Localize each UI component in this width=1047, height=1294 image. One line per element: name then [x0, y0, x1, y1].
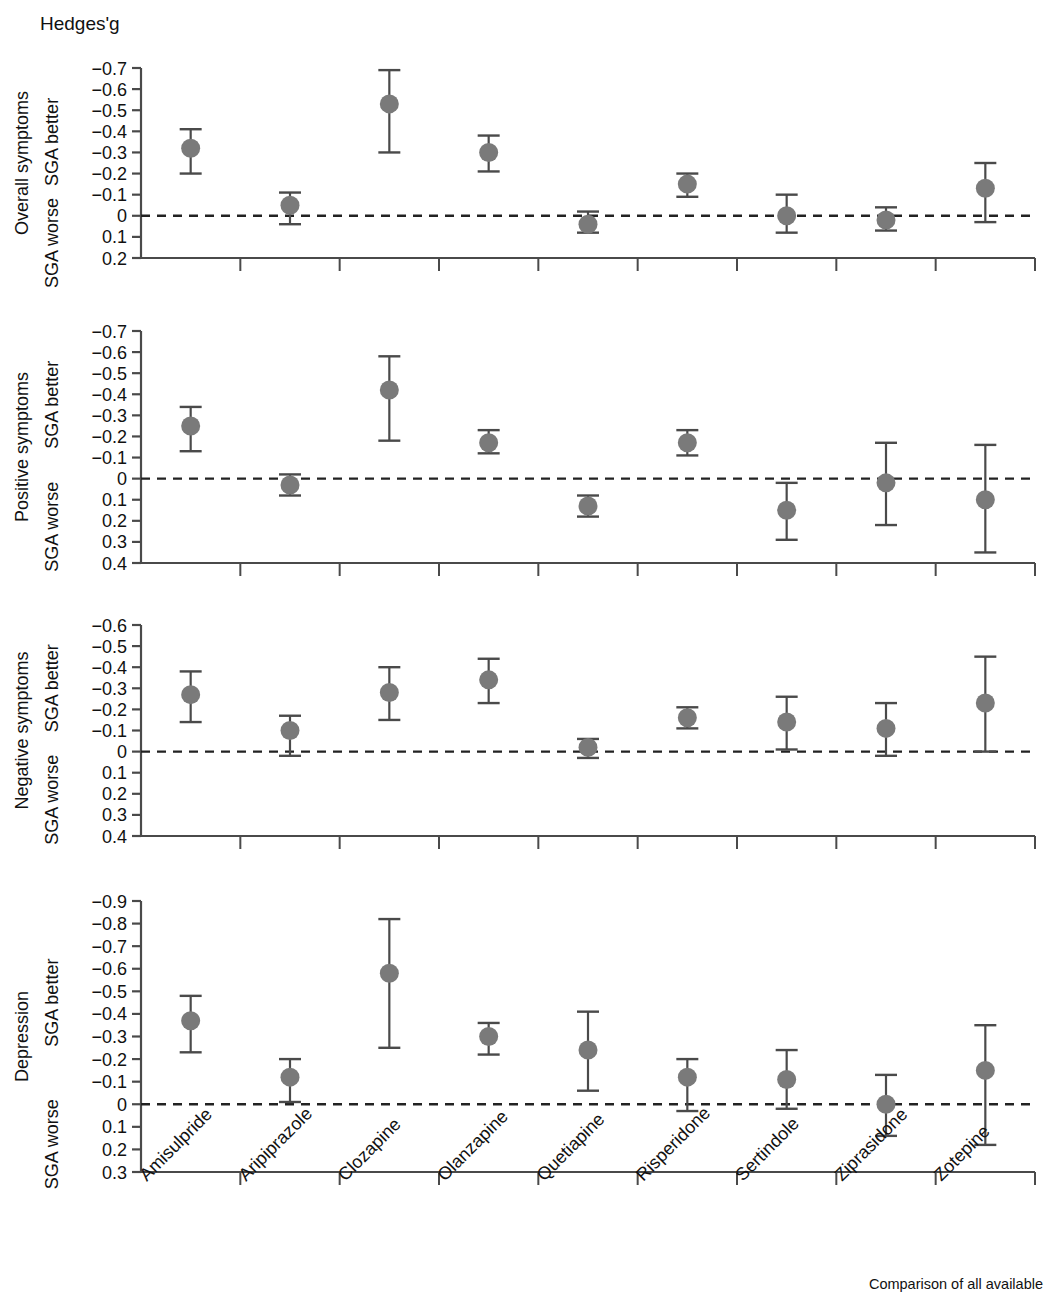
effect-size-marker	[479, 143, 498, 162]
effect-size-marker	[380, 683, 399, 702]
sga-worse-label: SGA worse	[42, 755, 62, 845]
panel-title: Overall symptoms	[12, 91, 32, 235]
data-point-group	[378, 919, 400, 1048]
panel-title: Depression	[12, 991, 32, 1082]
data-point-group	[676, 707, 698, 728]
data-point-group	[378, 356, 400, 440]
data-point-group	[478, 136, 500, 172]
sga-better-label: SGA better	[42, 98, 62, 186]
data-point-group	[875, 703, 897, 756]
y-tick-label: −0.2	[91, 1050, 127, 1070]
data-point-group	[279, 716, 301, 756]
x-category-label: Clozapine	[334, 1114, 405, 1185]
effect-size-marker	[877, 719, 896, 738]
panel-3: −0.6−0.5−0.4−0.3−0.2−0.100.10.20.30.4Neg…	[12, 616, 1035, 850]
effect-size-marker	[380, 381, 399, 400]
effect-size-marker	[579, 497, 598, 516]
effect-size-marker	[579, 738, 598, 757]
y-tick-label: 0.2	[102, 784, 127, 804]
effect-size-marker	[281, 721, 300, 740]
data-point-group	[180, 407, 202, 451]
data-point-group	[776, 697, 798, 750]
effect-size-marker	[281, 475, 300, 494]
y-tick-label: −0.1	[91, 448, 127, 468]
sga-better-label: SGA better	[42, 959, 62, 1047]
data-point-group	[875, 443, 897, 525]
y-tick-label: −0.3	[91, 679, 127, 699]
data-point-group	[279, 193, 301, 225]
effect-size-marker	[877, 211, 896, 230]
y-tick-label: −0.7	[91, 937, 127, 957]
y-tick-label: 0.4	[102, 554, 127, 574]
y-tick-label: 0.1	[102, 490, 127, 510]
y-tick-label: 0	[117, 742, 127, 762]
data-point-group	[974, 657, 996, 752]
data-point-group	[378, 667, 400, 720]
x-category-label: Zotepine	[930, 1121, 994, 1185]
data-point-group	[676, 430, 698, 455]
effect-size-marker	[281, 196, 300, 215]
effect-size-marker	[678, 708, 697, 727]
y-tick-label: −0.6	[91, 80, 127, 100]
panel-1: −0.7−0.6−0.5−0.4−0.3−0.2−0.100.10.2Overa…	[12, 59, 1035, 288]
y-tick-label: 0.2	[102, 249, 127, 269]
data-point-group	[577, 1012, 599, 1091]
data-point-group	[776, 1050, 798, 1109]
y-tick-label: 0.1	[102, 763, 127, 783]
y-tick-label: −0.6	[91, 616, 127, 636]
data-point-group	[478, 430, 500, 453]
y-tick-label: −0.5	[91, 364, 127, 384]
y-tick-label: −0.6	[91, 343, 127, 363]
effect-size-marker	[678, 1068, 697, 1087]
sga-worse-label: SGA worse	[42, 482, 62, 572]
panel-title: Negative symptoms	[12, 651, 32, 809]
data-point-group	[378, 70, 400, 152]
y-tick-label: 0	[117, 206, 127, 226]
effect-size-marker	[479, 1027, 498, 1046]
y-tick-label: −0.4	[91, 385, 127, 405]
y-tick-label: −0.2	[91, 700, 127, 720]
figure-caption: Comparison of all available	[0, 1276, 1047, 1294]
y-tick-label: −0.6	[91, 959, 127, 979]
effect-size-marker	[181, 139, 200, 158]
y-tick-label: −0.3	[91, 1027, 127, 1047]
y-tick-label: 0.3	[102, 532, 127, 552]
effect-size-marker	[976, 694, 995, 713]
data-point-group	[676, 174, 698, 197]
data-point-group	[974, 163, 996, 222]
data-point-group	[180, 996, 202, 1052]
effect-size-marker	[976, 1061, 995, 1080]
effect-size-marker	[777, 713, 796, 732]
sga-better-label: SGA better	[42, 361, 62, 449]
effect-size-marker	[479, 433, 498, 452]
effect-size-marker	[181, 1011, 200, 1030]
effect-size-marker	[877, 473, 896, 492]
y-tick-label: 0.3	[102, 1163, 127, 1183]
effect-size-marker	[777, 1070, 796, 1089]
y-tick-label: −0.2	[91, 164, 127, 184]
panel-title: Positive symptoms	[12, 372, 32, 522]
y-axis-title: Hedges'g	[40, 13, 120, 34]
effect-size-marker	[380, 964, 399, 983]
data-point-group	[974, 445, 996, 553]
y-tick-label: −0.1	[91, 721, 127, 741]
effect-size-marker	[678, 175, 697, 194]
effect-size-marker	[976, 490, 995, 509]
data-point-group	[776, 195, 798, 233]
data-point-group	[180, 671, 202, 722]
y-tick-label: −0.1	[91, 1072, 127, 1092]
y-tick-label: 0.3	[102, 805, 127, 825]
sga-worse-label: SGA worse	[42, 198, 62, 288]
y-tick-label: −0.3	[91, 143, 127, 163]
y-tick-label: 0.1	[102, 227, 127, 247]
y-tick-label: −0.8	[91, 914, 127, 934]
effect-size-marker	[181, 416, 200, 435]
panel-2: −0.7−0.6−0.5−0.4−0.3−0.2−0.100.10.20.30.…	[12, 322, 1035, 577]
forest-plot-svg: Hedges'g−0.7−0.6−0.5−0.4−0.3−0.2−0.100.1…	[0, 0, 1047, 1294]
data-point-group	[279, 1059, 301, 1102]
y-tick-label: 0.1	[102, 1117, 127, 1137]
data-point-group	[478, 1023, 500, 1055]
y-tick-label: −0.4	[91, 122, 127, 142]
effect-size-marker	[976, 179, 995, 198]
data-point-group	[875, 207, 897, 230]
